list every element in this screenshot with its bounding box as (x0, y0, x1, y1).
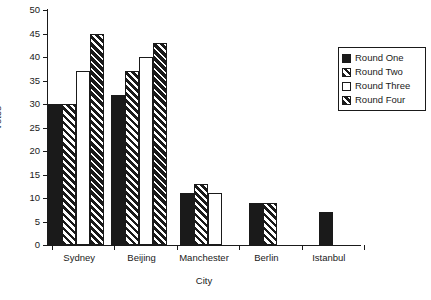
bar-r4-beijing (153, 43, 167, 245)
x-axis-tick (114, 245, 115, 250)
bar-r1-berlin (249, 203, 263, 245)
y-axis-tick-label: 40 (29, 52, 40, 62)
legend-label: Round Two (355, 67, 403, 77)
y-axis-tick-label: 15 (29, 170, 40, 180)
y-axis-title: Votes (0, 106, 3, 130)
y-axis-tick-label: 0 (35, 240, 40, 250)
bar-r3-beijing (139, 57, 153, 245)
legend-item-r4[interactable]: Round Four (342, 93, 421, 107)
bar-r2-sydney (62, 104, 76, 245)
legend-label: Round Three (355, 81, 410, 91)
legend-label: Round Four (355, 95, 405, 105)
y-axis-tick-label: 5 (35, 217, 40, 227)
y-axis-tick-label: 25 (29, 123, 40, 133)
y-axis-tick-label: 45 (29, 29, 40, 39)
bar-r1-istanbul (319, 212, 333, 245)
bar-r3-manchester (208, 193, 222, 245)
y-axis-tick (43, 10, 48, 11)
chart-figure: Votes City 05101520253035404550 Round On… (0, 0, 431, 300)
bar-r1-beijing (111, 95, 125, 245)
y-axis-tick (43, 57, 48, 58)
bar-r3-sydney (76, 71, 90, 245)
x-axis-tick-label: Beijing (127, 253, 156, 263)
bar-r2-manchester (194, 184, 208, 245)
y-axis-tick-label: 20 (29, 146, 40, 156)
legend-item-r3[interactable]: Round Three (342, 79, 421, 93)
x-axis-tick-label: Berlin (254, 253, 278, 263)
x-axis-tick-label: Manchester (179, 253, 229, 263)
legend-item-r2[interactable]: Round Two (342, 65, 421, 79)
legend-swatch-icon (342, 82, 351, 91)
bar-r1-sydney (48, 104, 62, 245)
bar-r2-berlin (263, 203, 277, 245)
plot-area: 05101520253035404550 (48, 10, 360, 245)
x-axis-line (47, 245, 361, 246)
y-axis-tick (43, 34, 48, 35)
y-axis-tick-label: 50 (29, 5, 40, 15)
legend-swatch-icon (342, 54, 351, 63)
x-axis-tick (239, 245, 240, 250)
legend-swatch-icon (342, 68, 351, 77)
x-axis-tick (302, 245, 303, 250)
x-axis-title: City (196, 276, 212, 286)
y-axis-tick (43, 81, 48, 82)
y-axis-tick (43, 245, 48, 246)
x-axis-tick (52, 245, 53, 250)
x-axis-tick (177, 245, 178, 250)
bar-r2-beijing (125, 71, 139, 245)
x-axis-tick-label: Istanbul (312, 253, 345, 263)
y-axis-tick-label: 35 (29, 76, 40, 86)
y-axis-tick-label: 30 (29, 99, 40, 109)
legend-swatch-icon (342, 96, 351, 105)
x-axis-tick-label: Sydney (63, 253, 95, 263)
y-axis-tick-label: 10 (29, 193, 40, 203)
bar-r4-sydney (90, 34, 104, 246)
bar-r1-manchester (180, 193, 194, 245)
legend-item-r1[interactable]: Round One (342, 51, 421, 65)
chart-legend: Round OneRound TwoRound ThreeRound Four (338, 47, 426, 111)
x-axis-tick (364, 245, 365, 250)
legend-label: Round One (355, 53, 404, 63)
